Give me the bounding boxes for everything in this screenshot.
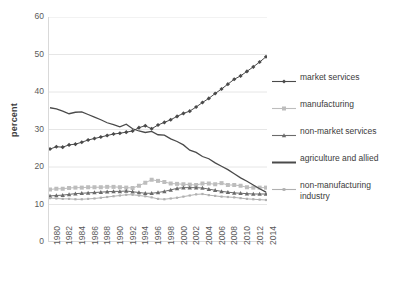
legend-item[interactable]: non-manufacturing industry — [272, 180, 397, 202]
data-point-marker — [252, 198, 254, 200]
data-point-marker — [245, 185, 249, 189]
data-point-marker — [175, 114, 179, 118]
y-tick-label: 40 — [24, 87, 44, 96]
data-point-marker — [233, 196, 235, 198]
data-point-marker — [144, 195, 146, 197]
legend-label: market services — [300, 72, 360, 83]
data-point-marker — [169, 182, 173, 186]
data-point-marker — [239, 184, 243, 188]
data-point-marker — [150, 127, 154, 131]
data-point-marker — [92, 185, 96, 189]
data-point-marker — [239, 197, 241, 199]
data-point-marker — [80, 140, 84, 144]
x-tick-label: 1990 — [116, 226, 125, 245]
data-point-marker — [282, 79, 286, 83]
legend-label: non-market services — [300, 126, 377, 137]
data-point-marker — [201, 193, 203, 195]
data-point-marker — [100, 197, 102, 199]
data-point-marker — [283, 188, 286, 191]
data-point-marker — [86, 138, 90, 142]
data-point-marker — [131, 186, 135, 190]
data-point-marker — [49, 197, 51, 199]
data-point-marker — [112, 185, 116, 189]
legend-item[interactable]: manufacturing — [272, 99, 397, 111]
legend-label: non-manufacturing industry — [300, 180, 397, 202]
data-point-marker — [73, 142, 77, 146]
y-tick-label: 0 — [24, 237, 44, 246]
data-point-marker — [150, 178, 154, 182]
data-point-marker — [143, 124, 147, 128]
data-point-marker — [175, 182, 179, 186]
data-point-marker — [220, 196, 222, 198]
data-point-marker — [54, 187, 58, 191]
data-point-marker — [93, 197, 95, 199]
data-point-marker — [68, 198, 70, 200]
x-tick-label: 1980 — [53, 226, 62, 245]
data-point-marker — [156, 123, 160, 127]
x-tick-label: 2008 — [230, 226, 239, 245]
data-point-marker — [62, 198, 64, 200]
legend-item[interactable]: non-market services — [272, 126, 397, 138]
data-point-marker — [151, 196, 153, 198]
y-axis-tick-labels: 0102030405060 — [22, 0, 44, 295]
data-point-marker — [207, 182, 211, 186]
legend-marker-icon — [272, 154, 296, 165]
x-tick-label: 2010 — [243, 226, 252, 245]
legend-marker-icon — [272, 127, 296, 138]
data-point-marker — [54, 145, 58, 149]
data-point-marker — [131, 194, 133, 196]
chart-figure: percent 0102030405060 198019821984198619… — [0, 0, 397, 295]
x-tick-label: 2004 — [205, 226, 214, 245]
data-point-marker — [105, 185, 109, 189]
data-point-marker — [125, 194, 127, 196]
data-point-marker — [73, 186, 77, 190]
x-tick-label: 2002 — [192, 226, 201, 245]
legend-item[interactable]: market services — [272, 72, 397, 84]
data-point-marker — [61, 145, 65, 149]
data-point-marker — [81, 198, 83, 200]
data-point-marker — [208, 194, 210, 196]
y-axis-title: percent — [9, 90, 19, 150]
x-tick-label: 2000 — [180, 226, 189, 245]
data-point-marker — [86, 185, 90, 189]
plot-area — [48, 17, 266, 242]
data-point-marker — [99, 135, 103, 139]
x-tick-label: 1996 — [154, 226, 163, 245]
x-tick-label: 2012 — [256, 226, 265, 245]
data-point-marker — [49, 188, 52, 192]
data-point-marker — [119, 194, 121, 196]
x-tick-label: 1994 — [141, 226, 150, 245]
data-point-marker — [163, 198, 165, 200]
data-point-marker — [170, 197, 172, 199]
data-point-marker — [99, 185, 103, 189]
data-point-marker — [227, 196, 229, 198]
data-point-marker — [214, 195, 216, 197]
data-point-marker — [176, 197, 178, 199]
data-point-marker — [182, 196, 184, 198]
x-tick-label: 1982 — [65, 226, 74, 245]
data-point-marker — [61, 187, 65, 191]
x-tick-label: 2014 — [269, 226, 278, 245]
legend-marker-icon — [272, 100, 296, 111]
data-point-marker — [118, 131, 122, 135]
data-point-marker — [220, 181, 224, 185]
data-point-marker — [226, 183, 230, 187]
chart-legend: market servicesmanufacturingnon-market s… — [272, 72, 397, 217]
data-point-marker — [143, 181, 147, 185]
legend-item[interactable]: agriculture and allied — [272, 153, 397, 165]
data-point-marker — [112, 195, 114, 197]
data-point-marker — [157, 198, 159, 200]
data-point-marker — [105, 133, 109, 137]
legend-marker-icon — [272, 73, 296, 84]
data-point-marker — [246, 198, 248, 200]
legend-label: manufacturing — [300, 99, 354, 110]
data-point-marker — [259, 199, 261, 201]
data-point-marker — [111, 132, 115, 136]
y-tick-label: 60 — [24, 12, 44, 21]
data-point-marker — [156, 179, 160, 183]
data-point-marker — [181, 111, 185, 115]
y-tick-label: 30 — [24, 125, 44, 134]
data-point-marker — [265, 199, 267, 201]
legend-marker-icon — [272, 181, 296, 192]
x-tick-label: 1986 — [91, 226, 100, 245]
